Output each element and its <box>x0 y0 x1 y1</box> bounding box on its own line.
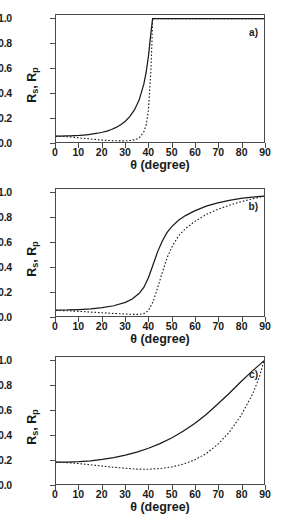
curve-rs-a <box>56 19 264 137</box>
panel-c: Rs, Rp c) 1.0 0.8 0.6 0.4 0.2 0.0 0 10 2… <box>0 342 281 517</box>
x-axis-label-a: θ (degree) <box>55 158 265 172</box>
x-tick-c-2: 20 <box>96 488 108 500</box>
y-tick-b-0: 0.0 <box>0 311 12 323</box>
y-tick-a-3: 0.6 <box>0 62 12 74</box>
y-tick-b-4: 0.8 <box>0 211 12 223</box>
x-tick-c-5: 50 <box>166 488 178 500</box>
x-tick-c-3: 30 <box>119 488 131 500</box>
plot-area-a: a) <box>55 14 265 143</box>
x-tick-a-7: 70 <box>212 146 224 158</box>
y-axis-label-a: Rs, Rp <box>25 25 39 145</box>
y-tick-b-5: 1.0 <box>0 186 12 198</box>
curve-rs-c <box>56 361 264 463</box>
curves-c <box>56 357 264 484</box>
curve-rp-a <box>56 19 264 141</box>
curves-a <box>56 15 264 142</box>
y-tick-c-1: 0.2 <box>0 454 12 466</box>
x-tick-b-5: 50 <box>166 320 178 332</box>
x-tick-a-2: 20 <box>96 146 108 158</box>
x-tick-a-9: 90 <box>259 146 271 158</box>
y-tick-c-2: 0.4 <box>0 429 12 441</box>
y-tick-c-4: 0.8 <box>0 379 12 391</box>
figure-fresnel-reflectance: Rs, Rp a) 1.0 0.8 0.6 0.4 0.2 0.0 0 10 2… <box>0 0 281 527</box>
x-tick-c-9: 90 <box>259 488 271 500</box>
x-tick-a-3: 30 <box>119 146 131 158</box>
x-tick-a-6: 60 <box>189 146 201 158</box>
x-tick-b-4: 40 <box>142 320 154 332</box>
x-tick-b-2: 20 <box>96 320 108 332</box>
x-tick-b-6: 60 <box>189 320 201 332</box>
panel-a: Rs, Rp a) 1.0 0.8 0.6 0.4 0.2 0.0 0 10 2… <box>0 0 281 175</box>
x-tick-c-0: 0 <box>52 488 58 500</box>
y-tick-c-0: 0.0 <box>0 479 12 491</box>
panel-label-a: a) <box>249 27 258 38</box>
y-tick-c-3: 0.6 <box>0 404 12 416</box>
plot-area-b: b) <box>55 188 265 317</box>
x-tick-c-1: 10 <box>72 488 84 500</box>
x-tick-a-8: 80 <box>236 146 248 158</box>
x-tick-a-5: 50 <box>166 146 178 158</box>
y-axis-label-b: Rs, Rp <box>25 199 39 319</box>
plot-area-c: c) <box>55 356 265 485</box>
x-tick-b-1: 10 <box>72 320 84 332</box>
x-tick-b-3: 30 <box>119 320 131 332</box>
x-tick-b-8: 80 <box>236 320 248 332</box>
x-tick-c-6: 60 <box>189 488 201 500</box>
y-tick-b-1: 0.2 <box>0 286 12 298</box>
y-tick-a-1: 0.2 <box>0 112 12 124</box>
x-tick-c-7: 70 <box>212 488 224 500</box>
y-tick-a-0: 0.0 <box>0 137 12 149</box>
curve-rs-b <box>56 196 264 310</box>
x-tick-b-9: 90 <box>259 320 271 332</box>
y-tick-b-3: 0.6 <box>0 236 12 248</box>
panel-label-c: c) <box>249 369 258 380</box>
curve-rp-b <box>56 196 264 314</box>
x-tick-a-1: 10 <box>72 146 84 158</box>
curve-rp-c <box>56 361 264 470</box>
y-tick-a-5: 1.0 <box>0 12 12 24</box>
y-axis-label-c: Rs, Rp <box>25 367 39 487</box>
x-tick-a-4: 40 <box>142 146 154 158</box>
curves-b <box>56 189 264 316</box>
y-tick-a-2: 0.4 <box>0 87 12 99</box>
x-axis-label-c: θ (degree) <box>55 500 265 514</box>
panel-label-b: b) <box>249 201 258 212</box>
x-tick-c-4: 40 <box>142 488 154 500</box>
y-tick-c-5: 1.0 <box>0 354 12 366</box>
y-tick-a-4: 0.8 <box>0 37 12 49</box>
panel-b: Rs, Rp b) 1.0 0.8 0.6 0.4 0.2 0.0 0 10 2… <box>0 174 281 349</box>
x-tick-b-0: 0 <box>52 320 58 332</box>
y-tick-b-2: 0.4 <box>0 261 12 273</box>
x-tick-a-0: 0 <box>52 146 58 158</box>
x-tick-b-7: 70 <box>212 320 224 332</box>
x-tick-c-8: 80 <box>236 488 248 500</box>
